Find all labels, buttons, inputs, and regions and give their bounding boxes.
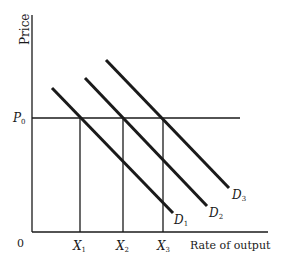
curve-label-d2: D2 xyxy=(209,207,223,221)
demand-shift-diagram xyxy=(0,0,284,269)
price-label-p0: P0 xyxy=(13,112,26,126)
demand-curve-d3 xyxy=(106,60,229,188)
x-axis-label: Rate of output xyxy=(190,240,270,251)
curve-label-d3: D3 xyxy=(232,189,246,203)
x-tick-x1: X1 xyxy=(73,240,86,254)
origin-label: 0 xyxy=(17,238,24,249)
x-tick-x3: X3 xyxy=(157,240,170,254)
y-axis-label: Price xyxy=(19,14,31,45)
x-tick-x2: X2 xyxy=(116,240,129,254)
curve-label-d1: D1 xyxy=(174,214,188,228)
